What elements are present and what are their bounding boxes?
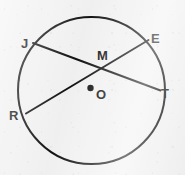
vertex-label-m: M — [97, 49, 108, 62]
vertex-label-e: E — [151, 32, 160, 45]
vertex-label-r: R — [9, 109, 18, 122]
vertex-label-j: J — [21, 37, 28, 50]
geometry-figure: J E M T O R — [0, 0, 185, 175]
geometry-canvas — [0, 0, 185, 175]
vertex-label-t: T — [161, 87, 169, 100]
chord-re — [26, 40, 149, 114]
center-point-dot — [87, 85, 93, 91]
vertex-label-o: O — [96, 88, 106, 101]
